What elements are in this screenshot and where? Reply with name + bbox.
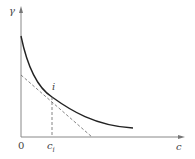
tangent-line-at-i (21, 75, 92, 137)
x-axis-label: c (176, 142, 182, 152)
x-axis-arrow-icon (178, 135, 185, 139)
decreasing-convex-curve (21, 36, 133, 128)
ci-subscript: i (53, 146, 55, 154)
y-axis-arrow-icon (19, 6, 23, 13)
ci-tick-label: ci (47, 141, 55, 154)
y-axis-label: γ (9, 6, 15, 16)
origin-label: 0 (18, 141, 24, 151)
point-i-label: i (52, 82, 55, 92)
diagram-canvas (0, 0, 195, 159)
